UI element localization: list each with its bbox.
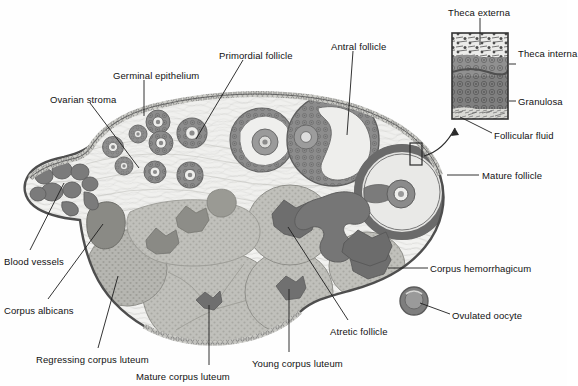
ovary-contents (30, 90, 460, 354)
secondary-follicle (230, 108, 294, 172)
primordial-follicle (177, 162, 203, 188)
ovulated-oocyte (400, 287, 428, 315)
label-ovarian-stroma: Ovarian stroma (50, 94, 116, 105)
label-germinal-epithelium: Germinal epithelium (113, 70, 199, 81)
label-theca-externa: Theca externa (448, 7, 510, 18)
label-corpus-albicans: Corpus albicans (4, 305, 74, 316)
primordial-follicle (129, 125, 147, 143)
label-granulosa: Granulosa (518, 96, 563, 107)
label-mature-corpus-luteum: Mature corpus luteum (136, 371, 230, 382)
label-mature-follicle: Mature follicle (482, 170, 542, 181)
primordial-follicle (177, 118, 207, 148)
label-corpus-hemorrhagicum: Corpus hemorrhagicum (430, 263, 531, 274)
label-primordial-follicle: Primordial follicle (219, 50, 293, 61)
label-theca-interna: Theca interna (518, 48, 578, 59)
label-follicular-fluid: Follicular fluid (494, 130, 554, 141)
primordial-follicle (149, 131, 173, 155)
label-young-corpus-luteum: Young corpus luteum (252, 358, 343, 369)
label-antral-follicle: Antral follicle (331, 41, 386, 52)
ovary-body (25, 90, 460, 354)
primordial-follicle (144, 161, 166, 183)
primordial-follicle (146, 110, 170, 134)
follicle-wall-inset (452, 33, 508, 119)
label-ovulated-oocyte: Ovulated oocyte (452, 310, 522, 321)
primordial-follicle (103, 137, 124, 158)
label-blood-vessels: Blood vessels (4, 256, 64, 267)
primordial-follicle (115, 157, 133, 175)
label-regressing-corpus-luteum: Regressing corpus luteum (36, 354, 149, 365)
label-atretic-follicle: Atretic follicle (330, 326, 388, 337)
